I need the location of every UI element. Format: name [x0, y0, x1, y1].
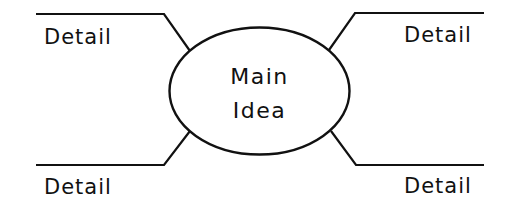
main-idea-label-line-2: Idea — [169, 100, 350, 122]
main-idea-label-line-1: Main — [169, 66, 350, 88]
detail-label-bottom-right: Detail — [404, 176, 472, 197]
detail-label-top-right: Detail — [404, 25, 472, 46]
connector-bottom-left — [36, 131, 190, 165]
connector-bottom-right — [331, 131, 484, 165]
detail-label-top-left: Detail — [44, 27, 112, 48]
detail-label-bottom-left: Detail — [44, 177, 112, 198]
main-idea-diagram: Main Idea Detail Detail Detail Detail — [0, 0, 517, 215]
main-idea-ellipse — [170, 28, 350, 155]
